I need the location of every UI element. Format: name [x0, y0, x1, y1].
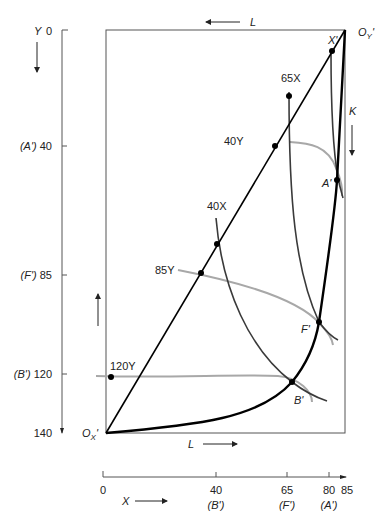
x-tick-65-sub: (F')	[279, 499, 295, 511]
x-tick-40-sub: (B')	[208, 499, 225, 511]
label-a-prime: A'	[321, 177, 332, 189]
label-40x: 40X	[207, 200, 227, 212]
diagonal-line	[106, 30, 345, 433]
y-axis-title: Y	[34, 25, 42, 37]
y-tick-85: (F') 85	[21, 269, 52, 281]
label-f-prime: F'	[301, 323, 311, 335]
point-a-prime	[334, 177, 340, 183]
svg-text:OX': OX'	[82, 427, 99, 442]
origin-x-label: OX'	[82, 427, 99, 442]
edgeworth-box-diagram: L OY' OX' K L Y 0 (A') 40 (F') 85 (B') 1…	[0, 0, 390, 524]
point-40y-diagonal	[272, 143, 278, 149]
label-85y: 85Y	[155, 264, 175, 276]
point-40x-diagonal	[214, 241, 220, 247]
origin-y-label: OY'	[358, 26, 375, 41]
svg-text:OY': OY'	[358, 26, 375, 41]
label-40y: 40Y	[224, 135, 244, 147]
y-tick-120: (B') 120	[14, 368, 52, 380]
label-65x: 65X	[281, 72, 301, 84]
point-b-prime	[289, 379, 295, 385]
isoquant-65x	[289, 92, 338, 340]
point-120y-diagonal	[108, 374, 114, 380]
x-tick-80: 80	[323, 484, 335, 496]
top-l-label: L	[250, 16, 256, 28]
x-tick-80-sub: (A')	[321, 499, 338, 511]
left-y-axis: Y 0 (A') 40 (F') 85 (B') 120 140	[14, 25, 68, 439]
x-tick-0: 0	[100, 484, 106, 496]
bottom-x-axis: 0 40 (B') 65 (F') 80 (A') 85 X	[100, 471, 353, 511]
x-tick-40: 40	[210, 484, 222, 496]
label-b-prime: B'	[294, 394, 304, 406]
right-k-label: K	[349, 105, 357, 117]
bottom-l-label: L	[188, 438, 194, 450]
point-85y-diagonal	[198, 270, 204, 276]
y-tick-140: 140	[34, 427, 52, 439]
y-tick-40: (A') 40	[20, 140, 52, 152]
label-120y: 120Y	[110, 360, 136, 372]
point-f-prime	[316, 319, 322, 325]
point-x-prime	[329, 48, 335, 54]
point-65x-diagonal	[286, 93, 292, 99]
label-x-prime: X'	[327, 34, 338, 46]
isoquant-120y	[96, 375, 312, 402]
y-tick-0: 0	[46, 25, 52, 37]
x-tick-85: 85	[341, 484, 353, 496]
x-axis-title: X	[121, 495, 130, 507]
isoquant-40x	[216, 218, 327, 401]
x-tick-65: 65	[281, 484, 293, 496]
